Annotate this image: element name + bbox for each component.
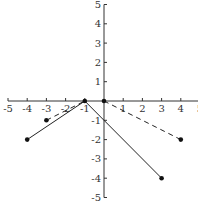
axes: -5-4-3-2-11234554321-1-2-3-4-5 — [3, 0, 198, 203]
x-tick-label: 4 — [178, 103, 184, 114]
x-tick-label: -5 — [3, 103, 13, 114]
coordinate-plane-chart: -5-4-3-2-11234554321-1-2-3-4-5 — [0, 0, 198, 207]
data-point-marker — [102, 99, 107, 104]
y-tick-label: 3 — [95, 38, 101, 49]
y-tick-label: -2 — [91, 134, 101, 145]
x-tick-label: 1 — [120, 103, 126, 114]
y-tick-label: 1 — [95, 76, 101, 87]
y-tick-label: -4 — [91, 173, 101, 184]
x-tick-label: -4 — [22, 103, 32, 114]
y-tick-label: 4 — [95, 18, 101, 29]
x-tick-label: -3 — [42, 103, 52, 114]
x-tick-label: 5 — [197, 103, 198, 114]
solid-segment-1 — [27, 101, 85, 140]
data-point-marker — [44, 118, 49, 123]
y-tick-label: 2 — [95, 57, 101, 68]
data-point-marker — [179, 137, 184, 142]
data-point-marker — [159, 176, 164, 181]
x-tick-label: 2 — [139, 103, 145, 114]
y-tick-label: 5 — [95, 0, 101, 10]
data-point-marker — [25, 137, 30, 142]
y-tick-label: -3 — [91, 153, 101, 164]
data-point-marker — [83, 99, 88, 104]
x-tick-label: 3 — [158, 103, 164, 114]
y-tick-label: -5 — [91, 192, 101, 203]
x-tick-label: -2 — [61, 103, 71, 114]
